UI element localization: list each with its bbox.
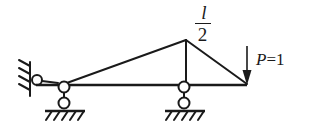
left-support-ground-hatching xyxy=(46,111,84,120)
span-label-denominator: 2 xyxy=(186,25,220,44)
left-support-upper-circle xyxy=(59,82,70,93)
wall-link-connector xyxy=(42,81,58,83)
wall-hatch-1 xyxy=(19,60,30,66)
beam-influence-line-figure: l 2 P=1 xyxy=(0,0,313,133)
left-support-lower-circle xyxy=(59,98,70,109)
span-label-numerator: l xyxy=(186,3,220,22)
mid-support-lower-circle xyxy=(179,98,190,109)
fixed-wall-hatching xyxy=(19,60,30,96)
load-symbol: P xyxy=(256,50,266,69)
load-magnitude-label: P=1 xyxy=(256,51,284,68)
influence-line-right-segment xyxy=(186,40,247,84)
mid-support-upper-circle xyxy=(179,82,190,93)
wall-pin-hinge-circle xyxy=(32,75,42,85)
mid-roller-support xyxy=(165,82,205,121)
wall-hatch-3 xyxy=(19,76,30,82)
unit-load-arrow xyxy=(243,46,252,85)
wall-hatch-2 xyxy=(19,68,30,74)
load-value: =1 xyxy=(266,50,284,69)
wall-hatch-4 xyxy=(19,84,30,90)
influence-line-left-segment xyxy=(64,40,186,84)
span-length-label: l 2 xyxy=(186,3,220,44)
mid-support-ground-hatching xyxy=(166,111,204,120)
left-roller-support xyxy=(45,82,85,121)
